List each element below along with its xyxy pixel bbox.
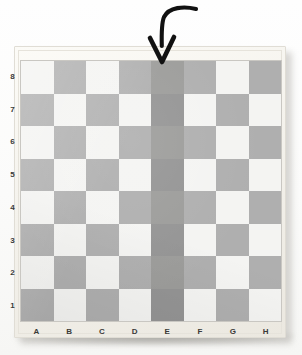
square-D8 xyxy=(119,61,152,94)
square-F3 xyxy=(184,224,217,257)
square-A1 xyxy=(21,289,54,322)
square-G7 xyxy=(216,94,249,127)
square-H7 xyxy=(249,94,282,127)
square-D4 xyxy=(119,191,152,224)
square-B4 xyxy=(54,191,87,224)
square-A6 xyxy=(21,126,54,159)
square-E1 xyxy=(151,289,184,322)
square-D1 xyxy=(119,289,152,322)
rank-label-7: 7 xyxy=(6,93,19,126)
chessboard-grid xyxy=(20,60,282,322)
file-label-F: F xyxy=(184,324,217,338)
square-H5 xyxy=(249,159,282,192)
square-B2 xyxy=(54,256,87,289)
square-E5 xyxy=(151,159,184,192)
square-G3 xyxy=(216,224,249,257)
square-E3 xyxy=(151,224,184,257)
square-A8 xyxy=(21,61,54,94)
square-H3 xyxy=(249,224,282,257)
square-C1 xyxy=(86,289,119,322)
square-E2 xyxy=(151,256,184,289)
rank-label-6: 6 xyxy=(6,126,19,159)
square-B3 xyxy=(54,224,87,257)
file-label-B: B xyxy=(53,324,86,338)
square-D2 xyxy=(119,256,152,289)
square-H2 xyxy=(249,256,282,289)
square-G4 xyxy=(216,191,249,224)
square-C5 xyxy=(86,159,119,192)
file-labels: ABCDEFGH xyxy=(20,324,282,338)
square-H8 xyxy=(249,61,282,94)
square-E7 xyxy=(151,94,184,127)
square-D7 xyxy=(119,94,152,127)
square-A7 xyxy=(21,94,54,127)
square-F1 xyxy=(184,289,217,322)
square-C8 xyxy=(86,61,119,94)
square-C3 xyxy=(86,224,119,257)
square-F2 xyxy=(184,256,217,289)
square-B5 xyxy=(54,159,87,192)
rank-label-4: 4 xyxy=(6,191,19,224)
square-F8 xyxy=(184,61,217,94)
square-B7 xyxy=(54,94,87,127)
square-C6 xyxy=(86,126,119,159)
square-G5 xyxy=(216,159,249,192)
square-C4 xyxy=(86,191,119,224)
square-D5 xyxy=(119,159,152,192)
square-H4 xyxy=(249,191,282,224)
square-B8 xyxy=(54,61,87,94)
file-label-H: H xyxy=(249,324,282,338)
file-label-D: D xyxy=(118,324,151,338)
square-H6 xyxy=(249,126,282,159)
rank-label-3: 3 xyxy=(6,224,19,257)
chessboard-scene: 87654321 ABCDEFGH xyxy=(0,0,302,355)
square-E8 xyxy=(151,61,184,94)
square-D3 xyxy=(119,224,152,257)
file-label-G: G xyxy=(217,324,250,338)
square-B6 xyxy=(54,126,87,159)
file-label-E: E xyxy=(151,324,184,338)
square-G2 xyxy=(216,256,249,289)
rank-label-2: 2 xyxy=(6,257,19,290)
square-F6 xyxy=(184,126,217,159)
square-E6 xyxy=(151,126,184,159)
square-G8 xyxy=(216,61,249,94)
square-G1 xyxy=(216,289,249,322)
square-F7 xyxy=(184,94,217,127)
square-D6 xyxy=(119,126,152,159)
square-A2 xyxy=(21,256,54,289)
square-B1 xyxy=(54,289,87,322)
square-C2 xyxy=(86,256,119,289)
square-G6 xyxy=(216,126,249,159)
square-F4 xyxy=(184,191,217,224)
square-H1 xyxy=(249,289,282,322)
chessboard-squares xyxy=(21,61,281,321)
square-A5 xyxy=(21,159,54,192)
square-E4 xyxy=(151,191,184,224)
file-label-C: C xyxy=(86,324,119,338)
file-label-A: A xyxy=(20,324,53,338)
square-C7 xyxy=(86,94,119,127)
rank-label-8: 8 xyxy=(6,60,19,93)
rank-label-1: 1 xyxy=(6,289,19,322)
square-F5 xyxy=(184,159,217,192)
rank-labels: 87654321 xyxy=(6,60,19,322)
square-A4 xyxy=(21,191,54,224)
square-A3 xyxy=(21,224,54,257)
rank-label-5: 5 xyxy=(6,158,19,191)
